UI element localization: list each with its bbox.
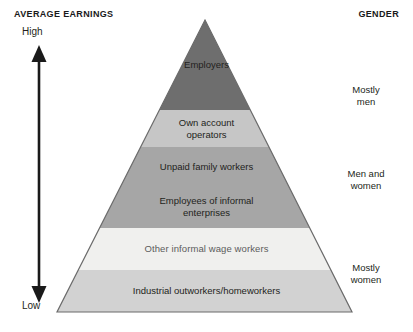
pyramid-band: [0, 110, 413, 147]
gender-label-men-and-women: Men and women: [329, 168, 403, 192]
pyramid-diagram: AVERAGE EARNINGS GENDER High Low Employe…: [0, 0, 413, 332]
gender-label-mostly-men: Mostly men: [329, 84, 403, 108]
pyramid-band: [0, 186, 413, 228]
gender-label-mostly-women: Mostly women: [329, 262, 403, 286]
